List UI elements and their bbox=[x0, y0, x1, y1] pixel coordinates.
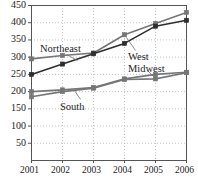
marker-west-2002 bbox=[60, 62, 64, 66]
marker-west-2006 bbox=[184, 18, 188, 22]
y-tick-label-350: 350 bbox=[11, 34, 26, 44]
marker-south-2005 bbox=[153, 77, 157, 81]
marker-west-2005 bbox=[153, 24, 157, 28]
line-chart: 5010015020025030035040045020012002200320… bbox=[0, 0, 198, 193]
marker-south-2001 bbox=[29, 95, 33, 99]
y-tick-label-200: 200 bbox=[11, 86, 26, 96]
marker-south-2006 bbox=[184, 71, 188, 75]
marker-northeast-2004 bbox=[122, 33, 126, 37]
y-tick-label-300: 300 bbox=[11, 52, 26, 62]
series-south bbox=[29, 71, 188, 99]
x-tick-label-2005: 2005 bbox=[144, 166, 163, 176]
y-tick-label-450: 450 bbox=[11, 0, 26, 10]
marker-west-2003 bbox=[91, 52, 95, 56]
marker-west-2001 bbox=[29, 72, 33, 76]
series-line-south bbox=[32, 73, 187, 97]
series-label-midwest: Midwest bbox=[128, 64, 165, 75]
x-tick-label-2002: 2002 bbox=[51, 166, 70, 176]
y-tick-label-150: 150 bbox=[11, 103, 26, 113]
x-tick-label-2006: 2006 bbox=[175, 166, 194, 176]
y-tick-label-250: 250 bbox=[11, 69, 26, 79]
marker-south-2003 bbox=[91, 86, 95, 90]
marker-south-2004 bbox=[122, 77, 126, 81]
y-tick-label-100: 100 bbox=[11, 121, 26, 131]
marker-northeast-2006 bbox=[184, 10, 188, 14]
series-label-south: South bbox=[60, 102, 85, 113]
marker-south-2002 bbox=[60, 90, 64, 94]
series-label-northeast: Northeast bbox=[40, 44, 81, 55]
series-line-midwest bbox=[32, 72, 187, 91]
x-tick-label-2003: 2003 bbox=[82, 166, 101, 176]
series-label-west: West bbox=[128, 52, 149, 63]
x-tick-label-2001: 2001 bbox=[20, 166, 39, 176]
marker-northeast-2001 bbox=[29, 57, 33, 61]
marker-midwest-2001 bbox=[29, 90, 33, 94]
marker-west-2004 bbox=[122, 41, 126, 45]
x-tick-label-2004: 2004 bbox=[113, 166, 132, 176]
y-tick-label-50: 50 bbox=[16, 138, 26, 148]
y-tick-label-400: 400 bbox=[11, 17, 26, 27]
